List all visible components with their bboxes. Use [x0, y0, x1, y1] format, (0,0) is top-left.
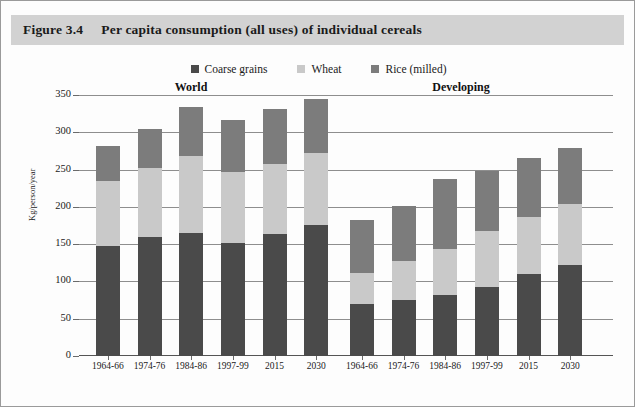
x-axis-tick [108, 356, 109, 360]
legend-swatch-coarse-grains [191, 65, 199, 73]
bar-world-1974-76 [138, 129, 162, 356]
chart-legend: Coarse grains Wheat Rice (milled) [1, 63, 635, 75]
bar-segment-wheat [350, 273, 374, 304]
panel-heading-developing: Developing [391, 80, 531, 95]
x-axis-tick [529, 356, 530, 360]
bar-segment-coarse-grains [558, 265, 582, 356]
bar-segment-wheat [179, 156, 203, 233]
bar-segment-coarse-grains [179, 233, 203, 356]
legend-item-wheat: Wheat [297, 63, 341, 75]
figure-number: Figure 3.4 [23, 22, 83, 38]
bar-segment-rice-milled- [179, 107, 203, 156]
y-axis-tick [73, 356, 79, 357]
bar-segment-rice-milled- [350, 220, 374, 273]
bar-segment-rice-milled- [138, 129, 162, 168]
y-axis-tick [73, 95, 79, 96]
bar-developing-2030 [558, 148, 582, 356]
bar-segment-rice-milled- [221, 120, 245, 172]
bar-developing-1997-99 [475, 171, 499, 356]
bar-segment-wheat [263, 164, 287, 233]
bar-segment-rice-milled- [433, 179, 457, 249]
legend-item-coarse-grains: Coarse grains [191, 63, 268, 75]
x-axis-tick [404, 356, 405, 360]
y-axis-tick-label: 200 [55, 200, 71, 211]
y-axis-tick [73, 244, 79, 245]
bar-segment-wheat [433, 249, 457, 294]
y-axis-tick-label: 150 [55, 237, 71, 248]
bar-segment-rice-milled- [475, 171, 499, 231]
bar-segment-wheat [96, 181, 120, 246]
figure-page: Figure 3.4 Per capita consumption (all u… [0, 0, 635, 407]
chart-plot-area: 1964-661974-761984-861997-99201520301964… [79, 95, 613, 356]
y-axis-tick-label: 50 [61, 312, 72, 323]
x-axis-tick [191, 356, 192, 360]
bar-segment-wheat [221, 172, 245, 243]
bar-segment-wheat [475, 231, 499, 287]
x-axis-tick [316, 356, 317, 360]
gridline [79, 95, 613, 96]
y-axis-tick [73, 170, 79, 171]
y-axis-labels: 050100150200250300350 [35, 95, 75, 356]
x-axis-tick [570, 356, 571, 360]
bar-segment-coarse-grains [138, 237, 162, 356]
bar-segment-coarse-grains [517, 274, 541, 356]
y-axis-tick [73, 132, 79, 133]
x-axis-tick [487, 356, 488, 360]
x-axis-tick [362, 356, 363, 360]
bar-segment-coarse-grains [221, 243, 245, 356]
y-axis-tick-label: 100 [55, 274, 71, 285]
bar-segment-coarse-grains [475, 287, 499, 356]
legend-swatch-rice-milled [371, 65, 379, 73]
bar-world-1984-86 [179, 107, 203, 356]
bar-world-1997-99 [221, 120, 245, 356]
legend-label-rice-milled: Rice (milled) [385, 63, 446, 75]
figure-title: Per capita consumption (all uses) of ind… [101, 22, 422, 38]
bar-segment-rice-milled- [392, 206, 416, 260]
bar-segment-rice-milled- [517, 158, 541, 217]
bar-segment-coarse-grains [392, 300, 416, 356]
bar-segment-coarse-grains [263, 234, 287, 356]
y-axis-tick [73, 281, 79, 282]
bar-world-2030 [304, 99, 328, 356]
bar-developing-1984-86 [433, 179, 457, 356]
bar-segment-wheat [138, 168, 162, 237]
legend-label-coarse-grains: Coarse grains [205, 63, 268, 75]
x-axis-tick [275, 356, 276, 360]
bar-segment-wheat [517, 217, 541, 274]
x-axis-tick [150, 356, 151, 360]
bar-segment-wheat [392, 261, 416, 301]
bar-segment-rice-milled- [263, 109, 287, 164]
y-axis-tick-label: 0 [66, 349, 71, 360]
bar-segment-coarse-grains [350, 304, 374, 356]
bar-world-1964-66 [96, 146, 120, 356]
x-axis-tick [233, 356, 234, 360]
y-axis-tick [73, 319, 79, 320]
bar-segment-coarse-grains [304, 225, 328, 356]
bar-segment-rice-milled- [96, 146, 120, 181]
bar-developing-1974-76 [392, 206, 416, 356]
bar-segment-coarse-grains [96, 246, 120, 356]
bar-world-2015 [263, 109, 287, 356]
y-axis-tick-label: 250 [55, 163, 71, 174]
bar-segment-wheat [558, 204, 582, 265]
x-axis-tick-label: 2030 [541, 361, 599, 371]
legend-item-rice-milled: Rice (milled) [371, 63, 446, 75]
figure-title-band: Figure 3.4 Per capita consumption (all u… [11, 15, 624, 45]
y-axis-tick-label: 300 [55, 125, 71, 136]
x-axis-tick [445, 356, 446, 360]
bar-developing-1964-66 [350, 220, 374, 356]
y-axis-tick-label: 350 [55, 88, 71, 99]
bar-developing-2015 [517, 158, 541, 356]
legend-swatch-wheat [297, 65, 305, 73]
panel-heading-world: World [131, 80, 251, 95]
legend-label-wheat: Wheat [311, 63, 341, 75]
bar-segment-rice-milled- [304, 99, 328, 153]
bar-segment-wheat [304, 153, 328, 225]
bar-segment-rice-milled- [558, 148, 582, 204]
bar-segment-coarse-grains [433, 295, 457, 356]
y-axis-tick [73, 207, 79, 208]
